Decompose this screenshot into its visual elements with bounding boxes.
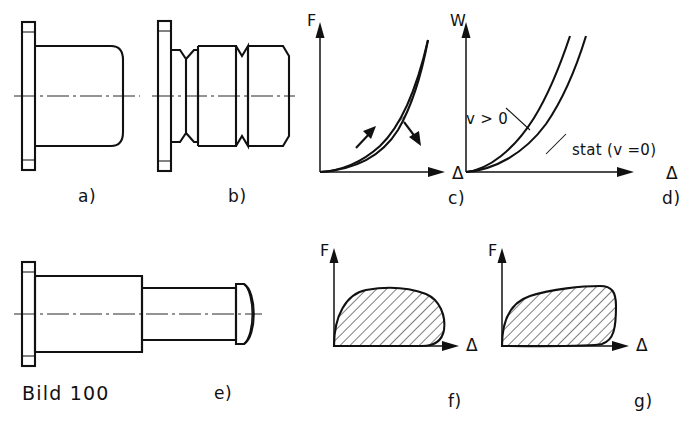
drawing-panel-a (14, 16, 144, 176)
panel-label-d: d) (662, 190, 681, 207)
x-axis-arrowhead-c (428, 167, 445, 177)
x-axis-label-f: Δ (466, 337, 478, 354)
loading-arrow-c (356, 126, 376, 148)
x-axis-arrowhead-g (612, 341, 629, 351)
annotation-v-positive: v > 0 (466, 112, 508, 127)
x-axis-arrowhead-f (442, 341, 459, 351)
panel-label-c: c) (448, 190, 465, 207)
figure-caption: Bild 100 (22, 384, 110, 403)
annotation-stat-v-zero: stat (v =0) (572, 143, 656, 158)
y-axis-label-c: F (307, 13, 316, 29)
x-axis-label-g: Δ (636, 337, 648, 354)
unloading-arrow-c (404, 122, 421, 146)
chart-panel-f (322, 244, 472, 374)
chart-panel-c (308, 14, 458, 184)
loading-branch-c (320, 40, 428, 172)
x-axis-label-c: Δ (452, 165, 464, 182)
x-axis-label-d: Δ (666, 165, 678, 182)
chart-panel-g (490, 244, 640, 374)
y-axis-label-g: F (488, 243, 497, 259)
x-axis-arrowhead-d (617, 167, 634, 177)
panel-label-g: g) (634, 393, 653, 410)
panel-label-b: b) (228, 188, 247, 205)
leader-line-v-positive-d (506, 108, 530, 130)
y-axis-arrowhead-g (498, 248, 507, 263)
panel-label-a: a) (78, 188, 96, 205)
panel-label-f: f) (448, 393, 462, 410)
leader-line-stat-d (546, 134, 566, 154)
drawing-panel-b (152, 16, 297, 176)
y-axis-arrowhead-c (316, 22, 325, 38)
y-axis-label-f: F (320, 243, 329, 259)
y-axis-arrowhead-f (330, 248, 339, 263)
curve-stat-d (466, 36, 586, 172)
hatched-area-g (502, 286, 616, 346)
drawing-panel-e (14, 258, 264, 370)
panel-label-e: e) (214, 385, 232, 402)
figure-bild-100: F Δ W Δ F Δ F Δ v > 0 stat (v =0) a) b) … (0, 0, 690, 429)
y-axis-label-d: W (450, 13, 466, 29)
